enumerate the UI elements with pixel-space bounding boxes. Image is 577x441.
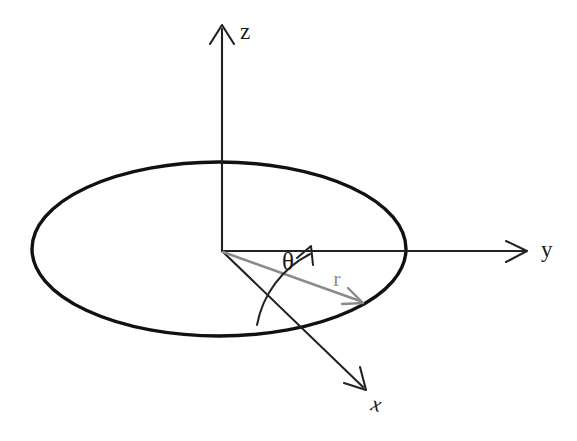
cylindrical-coordinates-diagram: z y x θ r (0, 0, 577, 441)
coordinate-system-canvas: z y x θ r (0, 0, 577, 441)
radius-length-label: r (333, 266, 341, 291)
z-axis-label: z (240, 19, 250, 44)
x-axis-label: x (368, 390, 384, 417)
y-axis-label: y (541, 237, 553, 262)
y-axis (222, 241, 527, 262)
z-axis (210, 25, 234, 251)
x-axis (222, 251, 366, 390)
xy-plane-ellipse (32, 162, 406, 336)
theta-arc-arrowhead (297, 246, 313, 265)
theta-angle-label: θ (282, 248, 294, 275)
